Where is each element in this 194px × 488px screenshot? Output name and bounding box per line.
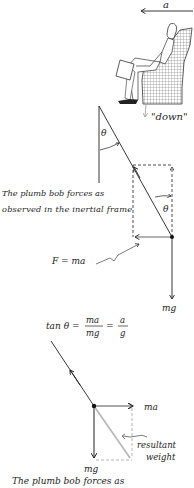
- resultant-label-line1: resultant: [137, 440, 177, 450]
- chair-person-illustration: [116, 23, 192, 117]
- theta-label-top: θ: [101, 128, 107, 138]
- accelerated-caption-line1: The plumb bob forces as: [12, 476, 125, 486]
- equation-prefix: tan θ =: [46, 321, 79, 331]
- resultant-label-line2: weight: [146, 452, 176, 462]
- tangent-equation: tan θ = ma mg = a g: [46, 315, 128, 338]
- equation-equals: =: [106, 321, 114, 331]
- theta-label-inner: θ: [163, 204, 169, 214]
- horizontal-force-label: ma: [144, 402, 158, 412]
- fraction2-numerator: a: [120, 315, 125, 325]
- inertial-caption-line1: The plumb bob forces as: [2, 188, 104, 198]
- weight-label-lower: mg: [84, 464, 99, 474]
- acceleration-label: a: [163, 0, 169, 10]
- inertial-caption-line2: observed in the inertial frame: [2, 204, 132, 214]
- force-label: F = ma: [51, 256, 85, 266]
- physics-diagram: a "down": [0, 0, 194, 488]
- down-label: "down": [151, 111, 188, 122]
- fraction2-denominator: g: [120, 328, 126, 338]
- fraction1-numerator: ma: [86, 315, 99, 325]
- fraction1-denominator: mg: [86, 328, 100, 338]
- weight-label-upper: mg: [162, 303, 177, 313]
- inertial-frame-diagram: [96, 106, 174, 299]
- accelerated-frame-diagram: [51, 341, 147, 460]
